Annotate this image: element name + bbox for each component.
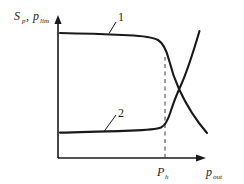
curve-2-label: 2 <box>118 106 124 120</box>
plot-canvas: 1 2 S p , p lim p out P h <box>0 0 244 184</box>
y-axis-label-main-1: S <box>14 9 20 23</box>
figure-container: 1 2 S p , p lim p out P h <box>0 0 244 184</box>
curve-1-leader-line <box>109 22 116 34</box>
y-axis-label-main-2: p <box>32 9 39 23</box>
curve-2-leader-line <box>104 115 116 132</box>
curve-1-label: 1 <box>118 10 124 24</box>
x-axis-arrowhead <box>196 154 206 161</box>
y-axis-label-separator: , <box>26 9 29 23</box>
y-axis-label: S p , p lim <box>14 9 49 25</box>
curve-2-path <box>60 31 200 133</box>
curve-1-path <box>60 33 207 133</box>
y-axis-label-sub-2: lim <box>40 17 49 25</box>
x-axis-label-sub: out <box>213 173 223 181</box>
ph-label-sub: h <box>165 173 169 181</box>
y-axis-arrowhead <box>54 15 61 24</box>
ph-label-main: P <box>156 165 165 179</box>
y-axis-group <box>54 15 61 158</box>
x-tick-label-ph: P h <box>156 165 169 181</box>
x-axis-label: p out <box>205 165 223 181</box>
x-axis-label-main: p <box>205 165 212 179</box>
x-axis-group <box>58 154 206 161</box>
